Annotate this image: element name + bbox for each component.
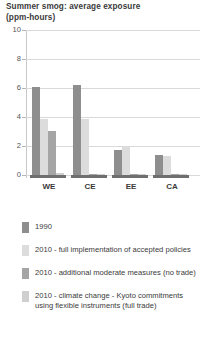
x-axis-label-ee: EE [114, 182, 148, 191]
bar-we-series-2[interactable] [48, 131, 56, 175]
x-axis-label-ca: CA [155, 182, 189, 191]
legend-swatch-icon-3 [22, 291, 29, 302]
bars-ee [114, 30, 155, 175]
bar-group-ee: EE [114, 30, 155, 178]
legend-swatch-icon-2 [22, 268, 29, 279]
y-axis-label-10: 10 [13, 26, 21, 34]
legend-item-0[interactable]: 1990 [0, 222, 216, 233]
chart-title-line-2: (ppm-hours) [6, 13, 210, 24]
x-axis-label-ce: CE [73, 182, 107, 191]
chart-legend: 19902010 - full implementation of accept… [0, 222, 216, 322]
group-baseline-ce [71, 175, 107, 178]
legend-label-0: 1990 [35, 222, 52, 232]
bar-ce-series-0[interactable] [73, 85, 81, 175]
bar-we-series-0[interactable] [32, 87, 40, 175]
bars-ce [73, 30, 114, 175]
y-tick-10 [22, 30, 26, 31]
y-tick-0 [22, 175, 26, 176]
chart-title: Summer smog: average exposure (ppm-hours… [6, 2, 210, 23]
legend-label-2: 2010 - additional moderate measures (no … [35, 268, 196, 278]
group-baseline-ee [112, 175, 148, 178]
bars-we [32, 30, 73, 175]
group-baseline-ca [153, 175, 189, 178]
y-tick-6 [22, 88, 26, 89]
y-tick-4 [22, 117, 26, 118]
bar-ee-series-0[interactable] [114, 150, 122, 175]
bar-group-ce: CE [73, 30, 114, 178]
y-axis-label-2: 2 [17, 142, 21, 150]
bar-ca-series-0[interactable] [155, 155, 163, 175]
bar-group-we: WE [32, 30, 73, 178]
legend-item-3[interactable]: 2010 - climate change - Kyoto commitment… [0, 291, 216, 310]
bar-chart: 0246810WECEEECA [0, 24, 216, 196]
bar-group-ca: CA [155, 30, 196, 178]
chart-title-line-1: Summer smog: average exposure [6, 2, 210, 13]
bar-ce-series-1[interactable] [81, 119, 89, 175]
bar-ca-series-1[interactable] [163, 156, 171, 175]
bar-ee-series-1[interactable] [122, 146, 130, 175]
plot-area: 0246810WECEEECA [26, 30, 200, 178]
bars-ca [155, 30, 196, 175]
bar-we-series-1[interactable] [40, 119, 48, 175]
y-axis-line [26, 30, 27, 178]
legend-label-1: 2010 - full implementation of accepted p… [35, 245, 191, 255]
y-axis-label-4: 4 [17, 113, 21, 121]
y-tick-8 [22, 59, 26, 60]
x-axis-label-we: WE [32, 182, 66, 191]
legend-label-3: 2010 - climate change - Kyoto commitment… [35, 291, 183, 310]
y-axis-label-8: 8 [17, 55, 21, 63]
group-baseline-we [30, 175, 66, 178]
legend-item-2[interactable]: 2010 - additional moderate measures (no … [0, 268, 216, 279]
y-axis-label-0: 0 [17, 171, 21, 179]
legend-swatch-icon-0 [22, 222, 29, 233]
legend-item-1[interactable]: 2010 - full implementation of accepted p… [0, 245, 216, 256]
y-tick-2 [22, 146, 26, 147]
legend-swatch-icon-1 [22, 245, 29, 256]
y-axis-label-6: 6 [17, 84, 21, 92]
